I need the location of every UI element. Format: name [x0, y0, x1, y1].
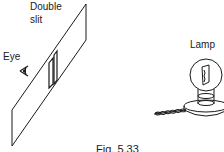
double-slit-diagram: Double slit Eye Lamp Fig. 5.33 [0, 0, 224, 152]
double-slit-label-line2: slit [30, 14, 42, 25]
power-cord [154, 109, 186, 115]
lamp-label: Lamp [190, 39, 215, 50]
double-slit-label-line1: Double [30, 1, 62, 12]
filament [202, 65, 209, 85]
slits [49, 51, 57, 88]
lamp-base [184, 100, 224, 116]
eye-icon [20, 66, 28, 76]
figure-caption: Fig. 5.33 [96, 143, 139, 152]
eye-label: Eye [3, 51, 20, 62]
